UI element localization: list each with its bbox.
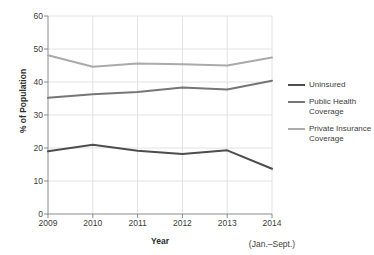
legend-item-public-health-coverage[interactable]: Public Health Coverage — [288, 97, 374, 117]
y-axis-title: % of Population — [18, 41, 28, 161]
legend-item-label: Uninsured — [309, 80, 345, 90]
x-tick-label-2013: 2013 — [218, 218, 237, 229]
legend-line-swatch — [288, 101, 305, 103]
legend-line-swatch — [288, 84, 305, 86]
legend-item-label: Public Health Coverage — [309, 97, 356, 117]
x-tick-label-2011: 2011 — [128, 218, 146, 229]
x-tick-label-text: 2009 — [39, 218, 58, 228]
legend-item-private-insurance-coverage[interactable]: Private Insurance Coverage — [288, 124, 374, 144]
x-tick-label-text: 2012 — [173, 218, 192, 228]
x-tick-label-2009: 2009 — [39, 218, 58, 229]
x-tick-label-text: 2010 — [83, 218, 102, 228]
x-tick-label-2012: 2012 — [173, 218, 192, 229]
chart-figure: 6050403020100 200920102011201220132014(J… — [0, 0, 374, 255]
chart-legend: UninsuredPublic Health CoveragePrivate I… — [288, 80, 374, 151]
x-tick-label-text: 2014 — [263, 218, 282, 228]
x-tick-label-text: 2011 — [128, 218, 146, 228]
legend-line-swatch — [288, 128, 305, 130]
x-axis-title: Year — [48, 236, 272, 246]
legend-item-uninsured[interactable]: Uninsured — [288, 80, 374, 90]
legend-item-label: Private Insurance Coverage — [309, 124, 371, 144]
x-tick-label-2010: 2010 — [83, 218, 102, 229]
x-tick-label-text: 2013 — [218, 218, 237, 228]
